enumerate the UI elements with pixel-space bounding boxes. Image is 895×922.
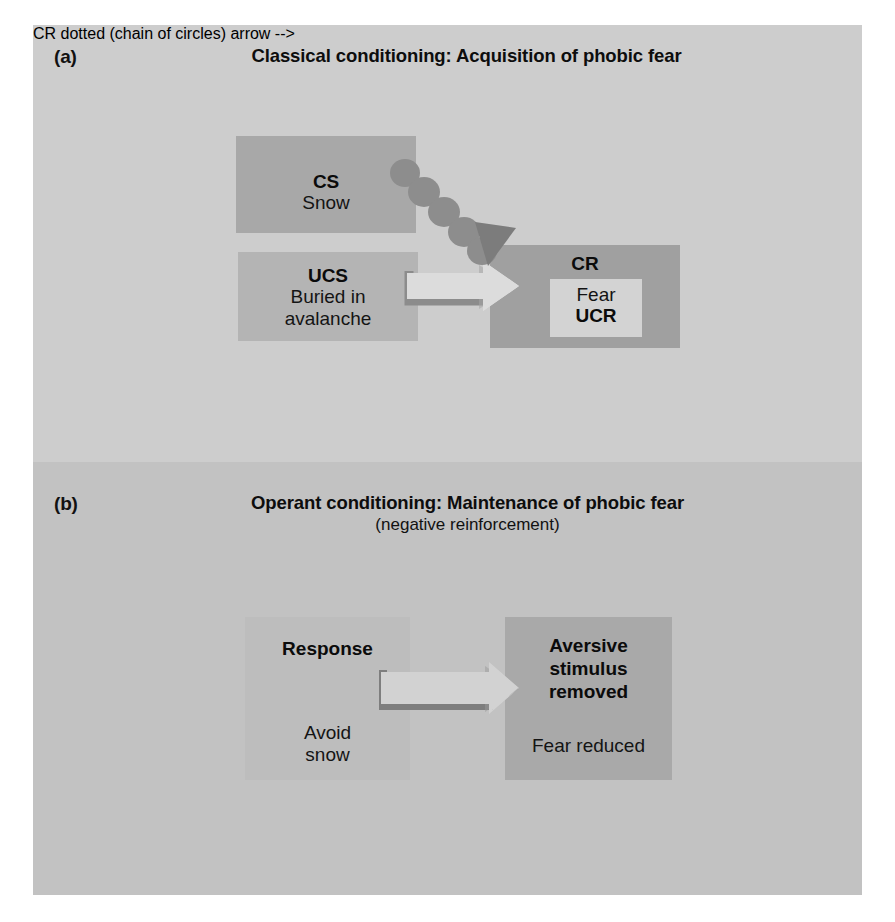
aversive-box-text: Fear reduced bbox=[505, 735, 672, 757]
response-text-line2: snow bbox=[305, 744, 349, 765]
response-text-line1: Avoid bbox=[304, 722, 351, 743]
aversive-box-label: Aversive stimulus removed bbox=[505, 635, 672, 703]
response-box-label: Response bbox=[245, 638, 410, 660]
aversive-label-line2: stimulus bbox=[549, 658, 627, 679]
ucs-box-text-line2: avalanche bbox=[238, 308, 418, 329]
cr-inner-line2: UCR bbox=[550, 306, 642, 327]
panel-b-title: Operant conditioning: Maintenance of pho… bbox=[33, 492, 862, 514]
panel-a: (a) Classical conditioning: Acquisition … bbox=[33, 25, 862, 462]
panel-a-title: Classical conditioning: Acquisition of p… bbox=[33, 45, 862, 67]
figure-container: (a) Classical conditioning: Acquisition … bbox=[33, 25, 862, 895]
aversive-label-line3: removed bbox=[549, 681, 628, 702]
cr-inner-box: Fear UCR bbox=[550, 279, 642, 337]
aversive-label-line1: Aversive bbox=[549, 635, 628, 656]
panel-b-subtitle: (negative reinforcement) bbox=[33, 515, 862, 535]
response-to-aversive-block-arrow-icon bbox=[373, 660, 523, 730]
dotted-association-arrow-icon bbox=[378, 150, 528, 275]
ucs-box-text-line1: Buried in bbox=[238, 286, 418, 307]
aversive-stimulus-box: Aversive stimulus removed Fear reduced bbox=[505, 617, 672, 780]
panel-b: (b) Operant conditioning: Maintenance of… bbox=[33, 462, 862, 895]
cr-inner-line1: Fear bbox=[550, 285, 642, 306]
